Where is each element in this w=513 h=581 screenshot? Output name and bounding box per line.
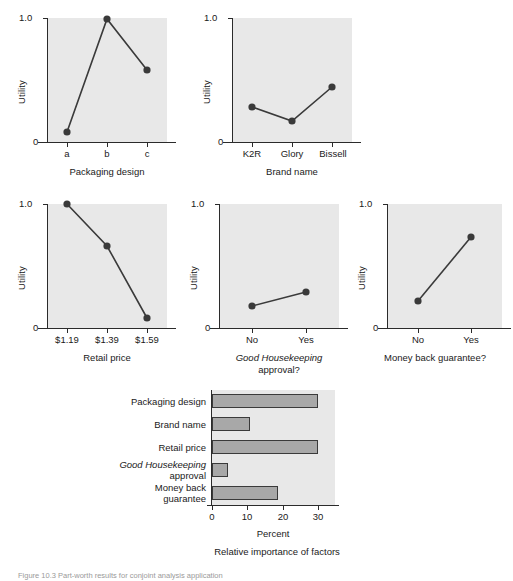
chart-retail-price: 1.0 0 Utility $1.19 $1.39 $1.59 Retail p… bbox=[0, 192, 175, 372]
bar-good-housekeeping-approval bbox=[212, 463, 228, 477]
label-line: guarantee bbox=[60, 493, 206, 504]
chart-good-housekeeping-approval: 1.0 0 Utility No Yes Good Housekeeping a… bbox=[172, 192, 347, 380]
series-line bbox=[172, 192, 347, 380]
figure-part-worth-results: 1.0 0 Utility a b c Packaging design 1.0… bbox=[0, 0, 513, 581]
series-line bbox=[185, 6, 360, 186]
bar-category-label-money-back-guarantee: Money back guarantee bbox=[60, 482, 206, 504]
chart-brand-name: 1.0 0 Utility K2R Glory Bissell Brand na… bbox=[185, 6, 360, 186]
x-tick-label-0: 0 bbox=[200, 511, 224, 522]
x-axis bbox=[207, 505, 339, 506]
label-line: Packaging design bbox=[80, 396, 206, 407]
chart-money-back-guarantee: 1.0 0 Utility No Yes Money back guarante… bbox=[340, 192, 513, 372]
x-tick-20 bbox=[283, 506, 284, 510]
series-line bbox=[0, 192, 175, 372]
series-line bbox=[0, 6, 175, 186]
x-tick-label-30: 30 bbox=[306, 511, 330, 522]
label-line: Money back bbox=[60, 482, 206, 493]
bar-money-back-guarantee bbox=[212, 486, 278, 500]
label-line: Brand name bbox=[80, 419, 206, 430]
x-tick-30 bbox=[318, 506, 319, 510]
bar-category-label-retail-price: Retail price bbox=[80, 442, 206, 453]
label-line-italic: Good Housekeeping bbox=[60, 459, 206, 470]
bar-retail-price bbox=[212, 440, 318, 454]
label-line: Retail price bbox=[80, 442, 206, 453]
x-tick-0 bbox=[212, 506, 213, 510]
bar-category-label-good-housekeeping-approval: Good Housekeeping approval bbox=[60, 459, 206, 481]
label-line: approval bbox=[60, 470, 206, 481]
bar-packaging-design bbox=[212, 394, 318, 408]
series-line bbox=[340, 192, 513, 372]
x-tick-label-10: 10 bbox=[235, 511, 259, 522]
figure-caption: Figure 10.3 Part-worth results for conjo… bbox=[18, 571, 223, 580]
x-tick-10 bbox=[247, 506, 248, 510]
x-tick-label-20: 20 bbox=[271, 511, 295, 522]
chart-packaging-design: 1.0 0 Utility a b c Packaging design bbox=[0, 6, 175, 186]
x-axis-title: Percent bbox=[211, 528, 335, 539]
chart-relative-importance: Packaging design Brand name Retail price… bbox=[0, 388, 513, 563]
chart-subtitle-relative-importance: Relative importance of factors bbox=[152, 546, 402, 557]
bar-category-label-packaging-design: Packaging design bbox=[80, 396, 206, 407]
bar-brand-name bbox=[212, 417, 250, 431]
bar-category-label-brand-name: Brand name bbox=[80, 419, 206, 430]
